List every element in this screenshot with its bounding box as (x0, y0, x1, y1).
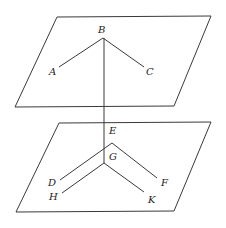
label-K: K (147, 194, 156, 205)
segment-BA (59, 38, 103, 67)
segment-GK (104, 163, 144, 192)
label-H: H (48, 191, 58, 202)
label-F: F (160, 177, 169, 188)
label-G: G (109, 151, 117, 162)
upper-plane (15, 16, 211, 107)
geometry-figure: B A C E G D F H K (0, 0, 226, 228)
label-A: A (48, 66, 56, 77)
segment-GH (62, 163, 104, 193)
label-C: C (146, 66, 154, 77)
label-D: D (47, 177, 56, 188)
segment-EF (112, 143, 157, 178)
label-B: B (97, 24, 105, 35)
label-E: E (108, 125, 117, 136)
segment-BC (103, 38, 144, 67)
